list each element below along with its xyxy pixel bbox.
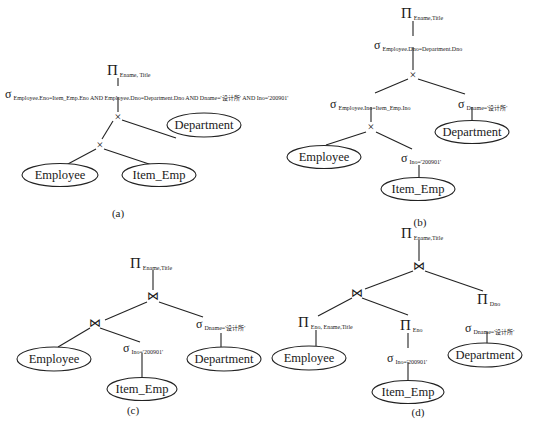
selection-condition: Dname='设计所' xyxy=(204,325,245,331)
projection-node: ΠEname, Title xyxy=(107,63,151,78)
selection-node-dept: σDname='设计所' xyxy=(196,316,245,331)
selection-condition: Employee.Eno=Item_Emp.Eno AND Employee.D… xyxy=(13,95,288,101)
selection-node-left: σEmployee.Ino=Item_Emp.Ino xyxy=(330,96,411,111)
relation-employee: Employee xyxy=(284,352,335,365)
projection-symbol: Π xyxy=(401,5,412,21)
projection-attributes: Eno xyxy=(413,327,423,333)
relation-employee: Employee xyxy=(299,151,350,164)
relation-employee: Employee xyxy=(29,353,80,366)
projection-symbol: Π xyxy=(477,291,488,307)
selection-condition: Ino='200901' xyxy=(409,159,441,165)
projection-node: ΠEname,Title xyxy=(401,226,443,241)
projection-node: ΠEname,Title xyxy=(130,256,172,271)
caption-a: (a) xyxy=(112,208,124,219)
selection-node-item: σIno='200901' xyxy=(123,340,163,355)
relation-department: Department xyxy=(194,353,253,366)
selection-node: σEmployee.Eno=Item_Emp.Eno AND Employee.… xyxy=(5,86,288,101)
join-node: ⋈ xyxy=(351,287,363,299)
selection-symbol: σ xyxy=(374,38,380,52)
cross-product-node: × xyxy=(97,139,104,151)
selection-condition: Ino='200901' xyxy=(131,349,163,355)
tree-edges xyxy=(0,0,533,433)
join-node: ⋈ xyxy=(413,260,425,272)
projection-attributes: Ename,Title xyxy=(143,265,172,271)
cross-product-node: × xyxy=(115,111,122,123)
selection-node-item: σIno='200901' xyxy=(401,150,441,165)
projection-attributes: Ename, Title xyxy=(120,72,151,78)
selection-node-item: σIno='200901' xyxy=(387,350,427,365)
relation-item-emp: Item_Emp xyxy=(133,169,186,182)
selection-node-right: σDname='设计所' xyxy=(458,96,507,111)
projection-attributes: Ename,Title xyxy=(414,15,443,21)
projection-symbol: Π xyxy=(401,225,412,241)
selection-symbol: σ xyxy=(401,151,407,165)
projection-node-item: ΠEno xyxy=(400,318,423,333)
relation-employee: Employee xyxy=(35,169,86,182)
selection-condition: Employee.Dno=Department.Dno xyxy=(382,46,462,52)
relation-department: Department xyxy=(442,126,501,139)
projection-attributes: Dno xyxy=(490,301,500,307)
join-node: ⋈ xyxy=(147,290,159,302)
projection-symbol: Π xyxy=(107,62,118,78)
projection-attributes: Ename,Title xyxy=(414,235,443,241)
cross-product-node: × xyxy=(410,69,417,81)
projection-attributes: Eno, Ename,Title xyxy=(311,324,353,330)
selection-symbol: σ xyxy=(465,321,471,335)
join-node: ⋈ xyxy=(89,317,101,329)
selection-symbol: σ xyxy=(330,97,336,111)
projection-symbol: Π xyxy=(130,255,141,271)
projection-node: ΠEname,Title xyxy=(401,6,443,21)
selection-condition: Dname='设计所' xyxy=(473,329,514,335)
projection-node-emp: ΠEno, Ename,Title xyxy=(298,315,353,330)
selection-node-top: σEmployee.Dno=Department.Dno xyxy=(374,37,462,52)
selection-symbol: σ xyxy=(123,341,129,355)
selection-symbol: σ xyxy=(5,87,11,101)
selection-condition: Ino='200901' xyxy=(395,359,427,365)
selection-symbol: σ xyxy=(387,351,393,365)
caption-c: (c) xyxy=(127,405,139,416)
selection-symbol: σ xyxy=(458,97,464,111)
selection-condition: Dname='设计所' xyxy=(466,105,507,111)
projection-symbol: Π xyxy=(400,317,411,333)
relation-department: Department xyxy=(174,119,233,132)
relation-department: Department xyxy=(455,349,514,362)
selection-node-dept: σDname='设计所' xyxy=(465,320,514,335)
selection-symbol: σ xyxy=(196,317,202,331)
selection-condition: Employee.Ino=Item_Emp.Ino xyxy=(338,105,410,111)
caption-d: (d) xyxy=(412,407,425,418)
relation-item-emp: Item_Emp xyxy=(116,383,169,396)
projection-node-dept: ΠDno xyxy=(477,292,500,307)
relation-item-emp: Item_Emp xyxy=(392,183,445,196)
cross-product-node: × xyxy=(368,121,375,133)
projection-symbol: Π xyxy=(298,314,309,330)
relation-item-emp: Item_Emp xyxy=(382,386,435,399)
